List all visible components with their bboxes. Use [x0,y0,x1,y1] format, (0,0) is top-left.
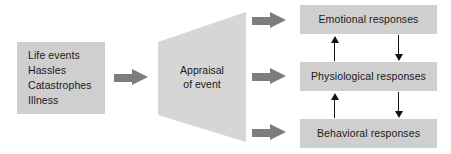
response-label-behavioral: Behavioral responses [317,127,420,141]
stressor-item-hassles: Hassles [28,63,92,78]
arrow-head-icon [270,68,286,84]
arrow-head-down-icon [395,111,403,118]
thin-arrow-physiological-to-behavioral [394,92,403,118]
block-arrow-appraisal-to-physiological [252,68,286,85]
arrow-head-icon [270,124,286,140]
appraisal-label-line2: of event [180,77,224,91]
thin-arrow-physiological-to-emotional [330,36,339,61]
response-label-emotional: Emotional responses [319,13,419,27]
stressor-item-catastrophes: Catastrophes [28,78,92,93]
thin-arrow-behavioral-to-physiological [330,93,339,118]
arrow-head-icon [132,69,148,85]
thin-arrow-emotional-to-physiological [394,35,403,61]
response-box-physiological: Physiological responses [300,62,437,91]
arrow-head-down-icon [395,54,403,61]
appraisal-label-line1: Appraisal [180,63,224,77]
arrow-line [334,98,335,118]
arrow-line [334,41,335,61]
appraisal-label: Appraisal of event [158,12,246,142]
stressors-box: Life events Hassles Catastrophes Illness [17,42,105,114]
block-arrow-appraisal-to-behavioral [252,124,286,141]
stressors-list: Life events Hassles Catastrophes Illness [28,48,92,108]
response-label-physiological: Physiological responses [311,70,426,84]
arrow-line [398,92,399,113]
appraisal-funnel: Appraisal of event [158,12,246,142]
arrow-line [398,35,399,56]
response-box-behavioral: Behavioral responses [300,119,437,148]
response-box-emotional: Emotional responses [300,5,437,34]
block-arrow-appraisal-to-emotional [252,12,286,29]
stressor-item-life-events: Life events [28,48,92,63]
stressor-item-illness: Illness [28,93,92,108]
block-arrow-stressors-to-appraisal [114,69,148,86]
stress-response-diagram: Life events Hassles Catastrophes Illness… [0,0,451,154]
arrow-head-icon [270,12,286,28]
